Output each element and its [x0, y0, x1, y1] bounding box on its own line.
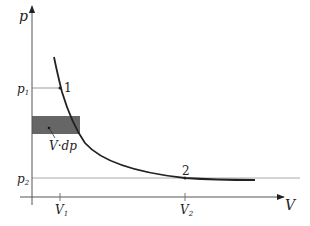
point-1: [59, 87, 62, 90]
vdp-area: [32, 116, 80, 134]
v2-label: V2: [180, 203, 194, 218]
p1-label: p1: [17, 82, 29, 97]
pv-diagram: p V p1 p2 V1 V2 1 2 V·dp: [0, 0, 310, 226]
point-2-label: 2: [182, 164, 190, 178]
point-1-label: 1: [64, 81, 72, 95]
isotherm-curve: [54, 57, 255, 180]
vdp-label: V·dp: [49, 139, 77, 153]
y-axis-label: p: [19, 8, 28, 24]
p2-label: p2: [17, 172, 30, 187]
x-axis-label: V: [285, 197, 297, 213]
v1-label: V1: [55, 203, 68, 218]
